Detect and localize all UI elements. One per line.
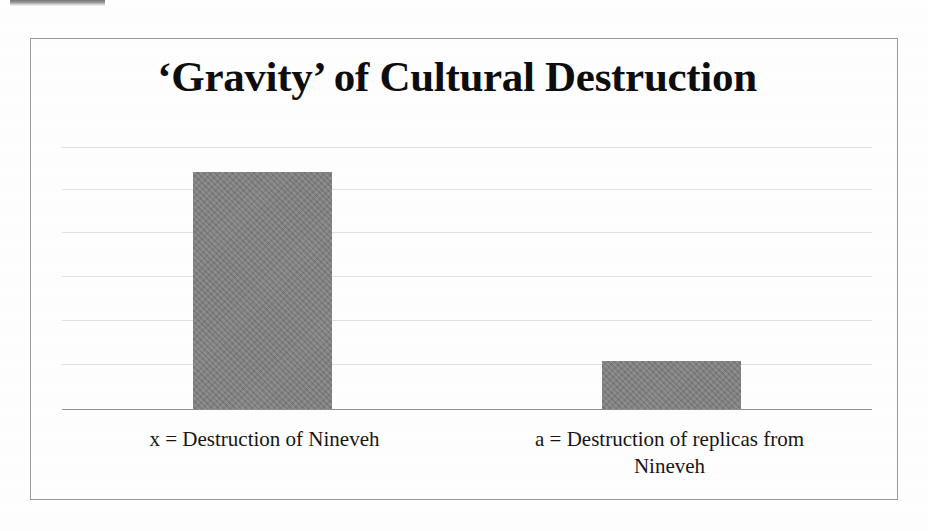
- chart-title: ‘Gravity’ of Cultural Destruction: [62, 52, 852, 103]
- scan-edge-artifact: [10, 0, 105, 6]
- gridline: [62, 276, 872, 277]
- gridline: [62, 320, 872, 321]
- plot-area: [62, 130, 872, 410]
- bar-destruction-of-nineveh: [193, 172, 332, 410]
- gridline: [62, 364, 872, 365]
- bar-destruction-of-replicas: [602, 361, 741, 410]
- category-label-a: a = Destruction of replicas from Nineveh: [467, 426, 872, 480]
- category-label-a-line2: Nineveh: [634, 454, 705, 478]
- gridline: [62, 147, 872, 148]
- scanned-slide-page: ‘Gravity’ of Cultural Destruction x = De…: [0, 0, 928, 531]
- gridline: [62, 189, 872, 190]
- gridline: [62, 232, 872, 233]
- x-axis-line: [62, 409, 872, 410]
- category-label-a-line1: a = Destruction of replicas from: [535, 427, 804, 451]
- category-label-x: x = Destruction of Nineveh: [62, 426, 467, 453]
- category-label-x-text: x = Destruction of Nineveh: [150, 427, 380, 451]
